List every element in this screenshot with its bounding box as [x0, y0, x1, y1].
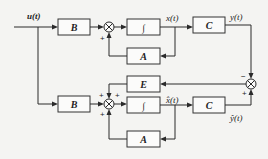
sign-plus-from-a: + [100, 110, 105, 119]
feedback-line-top [163, 27, 175, 56]
block-e-label: E [139, 79, 147, 90]
block-a-top-label: A [139, 51, 147, 62]
block-a-bottom: A [127, 131, 160, 147]
line [225, 92, 251, 105]
arrow-icon [107, 32, 112, 38]
block-b-bottom-label: B [70, 99, 78, 110]
output-label-y: y(t) [229, 12, 243, 22]
input-branch-line [38, 27, 55, 104]
summing-junction-error [246, 79, 256, 89]
arrow-icon [249, 89, 254, 95]
input-label-u: u(t) [27, 11, 41, 21]
sign-plus-from-e: + [115, 91, 120, 100]
block-diagram: u(t) B + ∫ x(t) A C y(t) [0, 0, 268, 159]
arrow-icon [121, 25, 127, 30]
block-a-top: A [127, 48, 160, 64]
block-c-bottom-label: C [206, 100, 213, 111]
arrow-icon [107, 109, 112, 115]
sign-plus-error: + [242, 89, 247, 98]
block-b-top-label: B [70, 22, 78, 33]
line [163, 105, 175, 139]
arrow-icon [160, 137, 166, 142]
block-e: E [127, 76, 160, 92]
arrow-icon [187, 25, 193, 30]
block-c-bottom: C [193, 97, 225, 113]
arrow-icon [160, 54, 166, 59]
arrow-icon [98, 102, 104, 107]
summing-junction-bottom [104, 99, 114, 109]
arrow-icon [107, 93, 112, 99]
sign-plus-from-b: + [99, 91, 104, 100]
line [109, 35, 127, 56]
arrow-icon [98, 25, 104, 30]
line [109, 112, 127, 139]
arrow-icon [187, 103, 193, 108]
arrow-icon [52, 25, 58, 30]
block-b-bottom: B [58, 96, 90, 112]
state-label-x: x(t) [165, 13, 179, 23]
arrow-icon [121, 102, 127, 107]
block-integrator-bottom: ∫ [127, 97, 160, 113]
block-a-bottom-label: A [139, 134, 147, 145]
block-b-top: B [58, 19, 90, 35]
sign-plus-top: + [100, 34, 105, 43]
arrow-icon [249, 73, 254, 79]
sign-minus-error: − [241, 72, 246, 81]
block-c-top: C [193, 17, 225, 33]
output-estimate-label: ŷ(t) [229, 113, 243, 123]
block-c-top-label: C [206, 20, 213, 31]
arrow-icon [52, 102, 58, 107]
block-integrator-top: ∫ [127, 19, 160, 35]
arrow-icon [160, 82, 166, 87]
summing-junction-top [104, 22, 114, 32]
state-estimate-label: x̂(t) [165, 95, 179, 105]
line [225, 25, 251, 76]
